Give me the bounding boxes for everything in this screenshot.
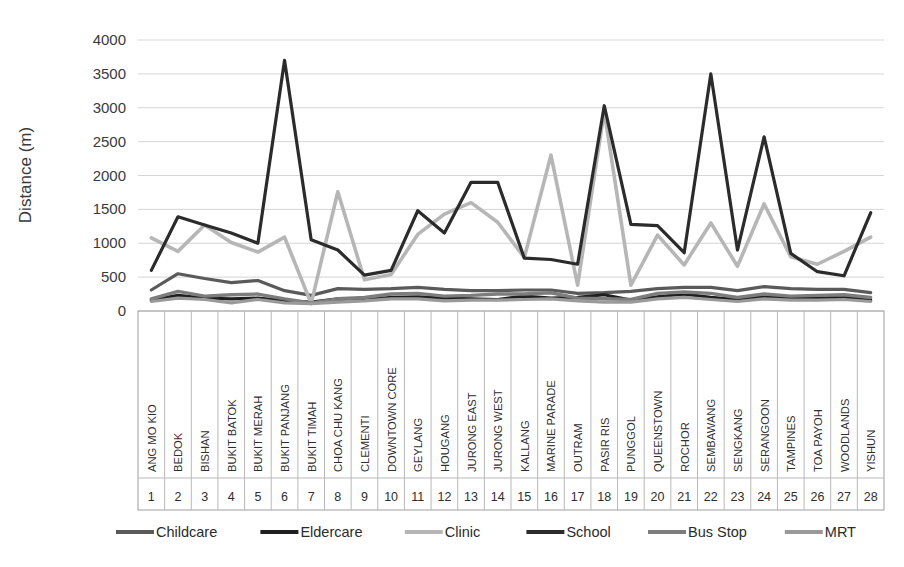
chart-canvas: Distance (m) 050010001500200025003000350… bbox=[0, 0, 904, 567]
y-axis-tick-label: 2000 bbox=[93, 167, 126, 184]
category-index-label: 24 bbox=[757, 490, 771, 504]
category-index-label: 5 bbox=[254, 490, 261, 504]
category-index-label: 25 bbox=[784, 490, 798, 504]
y-axis-tick-label: 3000 bbox=[93, 99, 126, 116]
category-label: BUKIT PANJANG bbox=[279, 384, 291, 472]
category-label: DOWNTOWN CORE bbox=[386, 367, 398, 472]
category-label: TAMPINES bbox=[785, 416, 797, 472]
category-index-label: 8 bbox=[334, 490, 341, 504]
category-label: CHOA CHU KANG bbox=[332, 378, 344, 472]
category-index-label: 22 bbox=[704, 490, 718, 504]
y-axis-tick-label: 1000 bbox=[93, 234, 126, 251]
category-label: BISHAN bbox=[199, 430, 211, 472]
category-index-label: 10 bbox=[384, 490, 398, 504]
category-label: SERANGOON bbox=[759, 399, 771, 472]
category-index-label: 12 bbox=[437, 490, 451, 504]
category-index-label: 19 bbox=[624, 490, 638, 504]
category-label: OUTRAM bbox=[572, 424, 584, 472]
series-line-mrt bbox=[151, 297, 870, 303]
category-index-label: 7 bbox=[308, 490, 315, 504]
category-index-label: 18 bbox=[597, 490, 611, 504]
category-label: TOA PAYOH bbox=[812, 409, 824, 472]
category-index-label: 3 bbox=[201, 490, 208, 504]
category-index-labels: 1234567891011121314151617181920212223242… bbox=[148, 490, 878, 504]
series-lines bbox=[151, 60, 870, 303]
legend-label-school: School bbox=[566, 524, 610, 540]
category-index-label: 11 bbox=[411, 490, 424, 504]
legend-label-childcare: Childcare bbox=[156, 524, 217, 540]
category-index-label: 13 bbox=[464, 490, 478, 504]
y-axis-tick-label: 0 bbox=[118, 302, 126, 319]
y-axis-title-group: Distance (m) bbox=[16, 127, 35, 223]
category-label: BUKIT TIMAH bbox=[306, 402, 318, 472]
category-label: JURONG EAST bbox=[466, 392, 478, 472]
category-table bbox=[138, 311, 884, 510]
category-label: CLEMENTI bbox=[359, 415, 371, 472]
category-index-label: 16 bbox=[544, 490, 558, 504]
category-index-label: 1 bbox=[148, 490, 155, 504]
y-axis-tick-label: 4000 bbox=[93, 31, 126, 48]
category-index-label: 14 bbox=[491, 490, 505, 504]
category-index-label: 17 bbox=[571, 490, 585, 504]
category-label: MARINE PARADE bbox=[545, 380, 557, 472]
line-chart: Distance (m) 050010001500200025003000350… bbox=[0, 0, 904, 567]
y-axis-tick-label: 500 bbox=[101, 268, 126, 285]
legend-label-clinic: Clinic bbox=[445, 524, 480, 540]
category-index-label: 4 bbox=[228, 490, 235, 504]
category-label: SEMBAWANG bbox=[705, 399, 717, 472]
category-index-label: 2 bbox=[174, 490, 181, 504]
category-label: QUEENSTOWN bbox=[652, 391, 664, 472]
category-label: BUKIT MERAH bbox=[252, 396, 264, 472]
category-label: GEYLANG bbox=[412, 418, 424, 472]
y-axis-tick-label: 1500 bbox=[93, 200, 126, 217]
y-axis-tick-label: 2500 bbox=[93, 133, 126, 150]
legend-label-mrt: MRT bbox=[825, 524, 856, 540]
category-index-label: 20 bbox=[651, 490, 665, 504]
category-index-label: 21 bbox=[677, 490, 691, 504]
y-axis-tick-label: 3500 bbox=[93, 65, 126, 82]
chart-legend: ChildcareEldercareClinicSchoolBus StopMR… bbox=[116, 524, 856, 540]
category-index-label: 15 bbox=[517, 490, 531, 504]
y-axis-title: Distance (m) bbox=[16, 127, 35, 223]
legend-label-eldercare: Eldercare bbox=[300, 524, 362, 540]
category-label: BUKIT BATOK bbox=[226, 399, 238, 472]
category-label: WOODLANDS bbox=[839, 399, 851, 472]
y-axis-tick-labels: 05001000150020002500300035004000 bbox=[93, 31, 126, 319]
legend-label-bus-stop: Bus Stop bbox=[688, 524, 747, 540]
category-index-label: 28 bbox=[864, 490, 878, 504]
category-index-label: 23 bbox=[731, 490, 745, 504]
category-label: SENGKANG bbox=[732, 409, 744, 472]
category-label: ROCHOR bbox=[679, 422, 691, 472]
category-label: BEDOK bbox=[172, 432, 184, 472]
category-label: HOUGANG bbox=[439, 414, 451, 472]
category-label: ANG MO KIO bbox=[146, 404, 158, 472]
category-index-label: 26 bbox=[810, 490, 824, 504]
category-label: JURONG WEST bbox=[492, 389, 504, 472]
category-label: PUNGGOL bbox=[625, 416, 637, 472]
category-label: YISHUN bbox=[865, 430, 877, 472]
category-label: PASIR RIS bbox=[599, 418, 611, 473]
category-index-label: 9 bbox=[361, 490, 368, 504]
category-label: KALLANG bbox=[519, 420, 531, 472]
category-index-label: 27 bbox=[837, 490, 851, 504]
category-index-label: 6 bbox=[281, 490, 288, 504]
